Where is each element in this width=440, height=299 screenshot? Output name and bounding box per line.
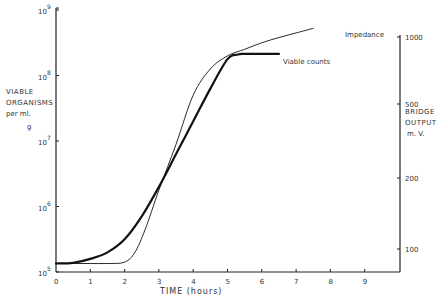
x-axis-label: TIME (hours): [159, 287, 222, 296]
data-series: [56, 28, 313, 263]
svg-text:m. V.: m. V.: [407, 130, 424, 138]
x-tick-label: 2: [123, 278, 127, 286]
x-tick-label: 3: [157, 278, 161, 286]
axes: [56, 8, 400, 272]
left-y-axis-label: VIABLE ORGANISMS per ml. g: [6, 88, 53, 131]
legend-viable-counts: Viable counts: [283, 58, 331, 66]
right-tick-label: 1000: [405, 34, 423, 42]
x-tick-label: 8: [328, 278, 332, 286]
svg-text:per ml.: per ml.: [6, 110, 31, 118]
svg-text:g: g: [27, 123, 31, 131]
y-tick-label: 109: [38, 3, 51, 16]
legend-impedance: Impedance: [345, 31, 384, 39]
y-tick-label: 107: [38, 134, 51, 147]
right-tick-label: 200: [405, 175, 418, 183]
x-tick-label: 7: [294, 278, 298, 286]
svg-text:ORGANISMS: ORGANISMS: [6, 99, 53, 107]
right-y-ticks: 1000500200100: [397, 34, 423, 254]
y-tick-label: 108: [38, 69, 51, 82]
x-tick-label: 4: [191, 278, 196, 286]
x-tick-label: 0: [54, 278, 58, 286]
viable-counts-line: [56, 54, 279, 264]
right-y-axis-label: BRIDGE OUTPUT m. V.: [405, 108, 437, 138]
x-tick-label: 5: [226, 278, 230, 286]
x-tick-label: 6: [260, 278, 265, 286]
svg-text:OUTPUT: OUTPUT: [405, 119, 437, 127]
x-tick-label: 1: [88, 278, 92, 286]
svg-text:BRIDGE: BRIDGE: [405, 108, 435, 116]
right-tick-label: 100: [405, 246, 418, 254]
x-tick-label: 9: [363, 278, 367, 286]
y-tick-label: 106: [38, 200, 51, 213]
svg-text:VIABLE: VIABLE: [6, 88, 34, 96]
impedance-line: [56, 28, 313, 263]
y-tick-label: 105: [38, 265, 51, 278]
chart: 0123456789 105106107108109 1000500200100…: [0, 0, 440, 299]
